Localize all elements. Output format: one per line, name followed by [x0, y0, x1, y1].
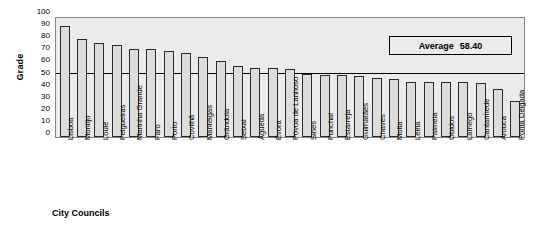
y-tick-0: 0 — [22, 129, 50, 137]
x-tick-label: Guimarães — [362, 103, 370, 140]
average-value: 58.40 — [460, 41, 483, 51]
x-tick-label: Porto — [171, 122, 179, 140]
x-tick-label: Lisboa — [67, 118, 75, 140]
y-tick-70: 70 — [22, 44, 50, 52]
bar-chart: Grade 1009080706050403020100 Average 58.… — [0, 0, 543, 241]
x-tick-label: Arouca — [500, 116, 508, 140]
x-tick-label: Ponta Delgada — [518, 90, 526, 140]
x-axis-title: City Councils — [52, 208, 110, 218]
y-tick-100: 100 — [22, 8, 50, 16]
x-tick-label: Cantanhede — [483, 99, 491, 140]
y-tick-30: 30 — [22, 93, 50, 101]
y-tick-10: 10 — [22, 117, 50, 125]
y-tick-60: 60 — [22, 56, 50, 64]
x-tick-label: Águeda — [258, 114, 266, 140]
x-tick-label: Grândola — [223, 109, 231, 140]
x-tick-label: Leiria — [414, 121, 422, 140]
x-tick-label: Lamego — [466, 113, 474, 140]
x-tick-label: Seixal — [240, 119, 248, 140]
y-tick-50: 50 — [22, 69, 50, 77]
x-tick-label: Covilhã — [188, 115, 196, 140]
x-tick-label: Moita — [396, 121, 404, 140]
x-axis-tick-labels: LisboaMontijoLouleFelgueirasMarinha Gran… — [55, 140, 525, 232]
x-tick-label: Loule — [102, 121, 110, 140]
average-annotation-box: Average 58.40 — [389, 36, 512, 55]
x-tick-label: Manteigas — [206, 105, 214, 140]
y-tick-90: 90 — [22, 20, 50, 28]
x-tick-label: Estarreja — [344, 110, 352, 140]
x-tick-label: Póvoa de Lanhoso — [292, 77, 300, 140]
x-tick-label: Évora — [275, 120, 283, 140]
x-tick-label: Chaves — [379, 114, 387, 140]
x-tick-label: Montijo — [84, 116, 92, 140]
x-tick-label: Sines — [310, 121, 318, 140]
x-tick-label: Palmela — [431, 113, 439, 140]
y-tick-20: 20 — [22, 105, 50, 113]
x-tick-label: Marinha Grande — [136, 85, 144, 140]
x-tick-label: Faro — [154, 124, 162, 140]
y-tick-80: 80 — [22, 32, 50, 40]
average-label: Average — [419, 41, 454, 51]
x-tick-label: Felgueiras — [119, 105, 127, 140]
y-axis-tick-labels: 1009080706050403020100 — [22, 12, 50, 138]
x-tick-label: Óbidos — [448, 116, 456, 140]
x-tick-label: Funchal — [327, 113, 335, 140]
y-tick-40: 40 — [22, 81, 50, 89]
